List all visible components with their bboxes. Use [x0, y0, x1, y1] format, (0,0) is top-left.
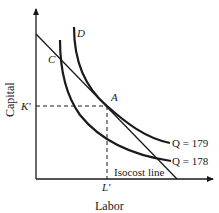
x-axis-label: Labor [95, 199, 124, 213]
isocost-isoquant-diagram: D C A K' L' Q = 179 Q = 178 Isocost line… [0, 0, 219, 213]
isocost-label: Isocost line [114, 166, 165, 178]
l-prime-label: L' [101, 181, 111, 193]
k-prime-label: K' [20, 100, 31, 112]
point-d-label: D [76, 27, 85, 39]
y-axis-label: Capital [3, 82, 17, 117]
point-c-label: C [48, 53, 56, 65]
point-a-label: A [110, 91, 118, 103]
q179-label: Q = 179 [172, 137, 209, 149]
q178-label: Q = 178 [172, 155, 209, 167]
